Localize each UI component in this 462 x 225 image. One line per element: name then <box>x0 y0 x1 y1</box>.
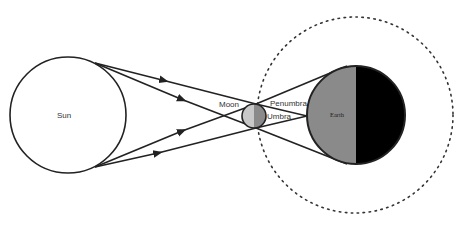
moon-label: Moon <box>219 100 239 109</box>
moon <box>242 104 266 128</box>
penumbra-label: Penumbra <box>270 99 307 108</box>
sun-label: Sun <box>57 111 71 120</box>
earth-label: Earth <box>330 111 345 118</box>
earth <box>307 66 405 164</box>
umbra-label: Umbra <box>267 112 292 121</box>
eclipse-diagram: Sun Moon Penumbra Umbra Earth <box>0 0 462 225</box>
